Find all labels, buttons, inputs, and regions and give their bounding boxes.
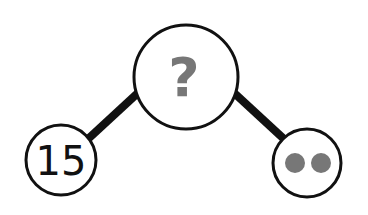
right-connector-line — [232, 91, 284, 139]
dot-icon — [285, 153, 305, 173]
whole-question-mark: ? — [168, 46, 199, 109]
diagram-svg: ? 15 — [0, 0, 368, 215]
dot-icon — [311, 153, 331, 173]
number-bond-diagram: ? 15 — [0, 0, 368, 215]
part-left-number: 15 — [36, 138, 87, 184]
left-connector-line — [88, 91, 140, 139]
